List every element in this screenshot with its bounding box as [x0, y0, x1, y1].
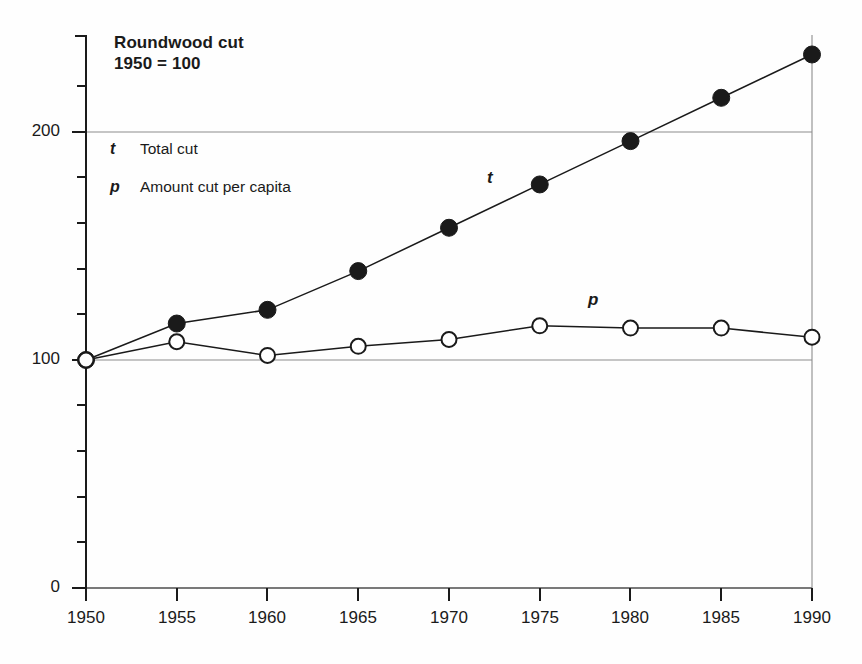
y-minor-ticks [77, 86, 86, 542]
chart-legend: t Total cut p Amount cut per capita [110, 141, 291, 217]
legend-label-p: Amount cut per capita [140, 179, 291, 195]
x-axis-label-1980: 1980 [600, 608, 660, 628]
x-axis-label-1960: 1960 [237, 608, 297, 628]
data-point-t-1970 [441, 219, 458, 236]
data-point-p-1980 [623, 321, 638, 336]
data-point-p-1975 [532, 318, 547, 333]
legend-item-t: t Total cut [110, 141, 291, 157]
x-axis-label-1955: 1955 [147, 608, 207, 628]
y-axis-label-100: 100 [4, 349, 60, 369]
data-point-p-1960 [260, 348, 275, 363]
data-point-t-1955 [168, 315, 185, 332]
legend-key-t: t [110, 141, 140, 157]
data-point-t-1980 [622, 133, 639, 150]
legend-key-p: p [110, 179, 140, 195]
y-axis-label-200: 200 [4, 121, 60, 141]
series-annotation-p: p [588, 290, 598, 310]
series-annotation-t: t [487, 168, 493, 188]
x-axis-label-1975: 1975 [510, 608, 570, 628]
data-point-p-1985 [714, 321, 729, 336]
chart-title-block: Roundwood cut 1950 = 100 [114, 32, 244, 75]
chart-figure: Roundwood cut 1950 = 100 t Total cut p A… [0, 0, 862, 664]
x-ticks [86, 588, 812, 601]
x-axis-label-1950: 1950 [56, 608, 116, 628]
data-point-t-1975 [531, 176, 548, 193]
data-point-p-1950 [79, 353, 94, 368]
chart-canvas [0, 0, 862, 664]
data-point-p-1965 [351, 339, 366, 354]
legend-item-p: p Amount cut per capita [110, 179, 291, 195]
data-point-t-1990 [804, 46, 821, 63]
data-point-t-1965 [350, 263, 367, 280]
x-axis-label-1985: 1985 [691, 608, 751, 628]
chart-subtitle: 1950 = 100 [114, 53, 244, 74]
legend-label-t: Total cut [140, 141, 198, 157]
data-point-p-1955 [169, 334, 184, 349]
data-point-p-1990 [805, 330, 820, 345]
data-point-t-1985 [713, 89, 730, 106]
data-point-t-1960 [259, 301, 276, 318]
chart-title: Roundwood cut [114, 32, 244, 53]
x-axis-label-1990: 1990 [782, 608, 842, 628]
data-point-p-1970 [442, 332, 457, 347]
x-axis-label-1965: 1965 [328, 608, 388, 628]
y-axis-label-0: 0 [4, 577, 60, 597]
x-axis-label-1970: 1970 [419, 608, 479, 628]
